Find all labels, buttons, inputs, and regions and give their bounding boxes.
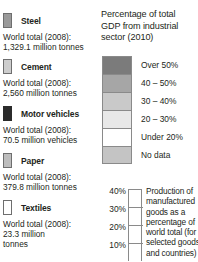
map-legend-panel: Steel World total (2008): 1,329.1 millio… xyxy=(0,0,198,262)
legend-item-20-30: 20 – 30% xyxy=(102,110,196,128)
legend-label: 40 – 50% xyxy=(141,78,176,88)
product-header: Motor vehicles xyxy=(0,105,98,122)
product-key-textiles: Textiles World total (2008): 23.3 millio… xyxy=(0,199,98,250)
product-world-total: World total (2008): 2,560 million tonnes xyxy=(3,78,98,98)
legend-label: No data xyxy=(141,150,170,160)
legend-swatch-icon xyxy=(102,74,132,92)
legend-swatch-icon xyxy=(102,128,132,146)
legend-label: Under 20% xyxy=(141,132,183,142)
scale-gradation xyxy=(129,225,143,226)
product-header: Steel xyxy=(0,12,98,29)
product-key-cement: Cement World total (2008): 2,560 million… xyxy=(0,58,98,98)
legend-label: 20 – 30% xyxy=(141,114,176,124)
product-key-paper: Paper World total (2008): 379.8 million … xyxy=(0,152,98,192)
scale-gradation xyxy=(129,243,143,244)
legend-swatch-icon xyxy=(102,92,132,110)
gdp-legend-title: Percentage of total GDP from industrial … xyxy=(101,9,197,44)
cement-swatch-icon xyxy=(3,59,12,74)
scale-tick-30: 30% xyxy=(109,204,126,214)
legend-item-over-50: Over 50% xyxy=(102,56,196,74)
production-scale: 40% 30% 20% 10% Production of manufactur… xyxy=(100,186,198,262)
product-label: Cement xyxy=(21,62,52,72)
legend-label: Over 50% xyxy=(141,60,178,70)
motor-vehicles-swatch-icon xyxy=(3,106,12,121)
legend-item-40-50: 40 – 50% xyxy=(102,74,196,92)
gdp-legend-column: Percentage of total GDP from industrial … xyxy=(98,0,198,262)
scale-tick-20: 20% xyxy=(109,222,126,232)
product-key-steel: Steel World total (2008): 1,329.1 millio… xyxy=(0,12,98,52)
textiles-swatch-icon xyxy=(3,200,12,215)
product-key-column: Steel World total (2008): 1,329.1 millio… xyxy=(0,0,98,262)
legend-swatch-icon xyxy=(102,146,132,164)
product-label: Paper xyxy=(21,156,44,166)
paper-swatch-icon xyxy=(3,153,12,168)
legend-item-no-data: No data xyxy=(102,146,196,164)
scale-caption: Production of manufactured goods as a pe… xyxy=(146,186,198,258)
gdp-legend-list: Over 50% 40 – 50% 30 – 40% 20 – 30% Unde… xyxy=(102,56,196,164)
product-header: Paper xyxy=(0,152,98,169)
product-world-total: World total (2008): 70.5 million vehicle… xyxy=(3,125,98,145)
steel-swatch-icon xyxy=(3,13,12,28)
product-key-motor-vehicles: Motor vehicles World total (2008): 70.5 … xyxy=(0,105,98,145)
product-header: Cement xyxy=(0,58,98,75)
scale-tick-40: 40% xyxy=(109,186,126,196)
legend-item-under-20: Under 20% xyxy=(102,128,196,146)
legend-swatch-icon xyxy=(102,110,132,128)
product-label: Motor vehicles xyxy=(21,109,79,119)
product-world-total: World total (2008): 1,329.1 million tonn… xyxy=(3,32,98,52)
product-label: Steel xyxy=(21,16,41,26)
legend-label: 30 – 40% xyxy=(141,96,176,106)
product-header: Textiles xyxy=(0,199,98,216)
legend-item-30-40: 30 – 40% xyxy=(102,92,196,110)
product-label: Textiles xyxy=(21,203,51,213)
product-world-total: World total (2008): 23.3 million tonnes xyxy=(3,219,98,250)
scale-bar-graphic xyxy=(128,189,142,261)
scale-tick-10: 10% xyxy=(109,240,126,250)
product-world-total: World total (2008): 379.8 million tonnes xyxy=(3,172,98,192)
scale-gradation xyxy=(129,207,143,208)
legend-swatch-icon xyxy=(102,56,132,74)
